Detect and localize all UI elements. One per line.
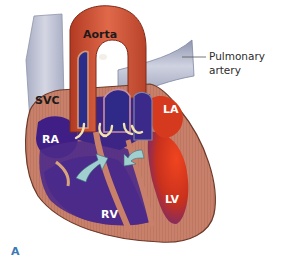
label-pulmonary-artery: Pulmonary artery <box>209 49 265 77</box>
heart-diagram: Aorta SVC RA LA RV LV Pulmonary artery A <box>0 0 282 269</box>
label-pulmonary-artery-line2: artery <box>209 63 265 77</box>
label-ra: RA <box>42 134 59 145</box>
panel-label: A <box>11 245 20 258</box>
label-lv: LV <box>165 194 179 205</box>
label-svc: SVC <box>35 95 60 106</box>
label-pulmonary-artery-line1: Pulmonary <box>209 49 265 63</box>
label-aorta: Aorta <box>83 29 117 40</box>
label-la: LA <box>163 104 179 115</box>
label-rv: RV <box>101 209 118 220</box>
